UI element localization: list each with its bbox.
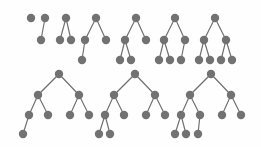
- tree-nodes-tree-1: [27, 14, 35, 22]
- tree-node: [228, 56, 236, 64]
- nodes-layer: [19, 14, 245, 138]
- tree-node: [44, 111, 52, 119]
- tree-nodes-tree-4: [78, 14, 110, 64]
- tree-root-node: [27, 14, 35, 22]
- tree-node: [194, 130, 202, 138]
- tree-node: [237, 111, 245, 119]
- tree-root-node: [131, 70, 139, 78]
- tree-node: [34, 91, 42, 99]
- tree-node: [101, 111, 109, 119]
- tree-root-node: [171, 14, 179, 22]
- tree-nodes-tree-8: [19, 70, 93, 138]
- tree-root-node: [92, 14, 100, 22]
- tree-node: [181, 36, 189, 44]
- tree-node: [106, 130, 114, 138]
- tree-node: [110, 91, 118, 99]
- tree-nodes-tree-7: [195, 14, 236, 64]
- tree-node: [160, 36, 168, 44]
- tree-node: [200, 36, 208, 44]
- tree-node: [218, 111, 226, 119]
- tree-root-node: [211, 14, 219, 22]
- tree-node: [85, 111, 93, 119]
- tree-edge: [135, 74, 155, 95]
- tree-node: [182, 130, 190, 138]
- tree-node: [120, 111, 128, 119]
- tree-node: [19, 130, 27, 138]
- tree-node: [177, 111, 185, 119]
- tree-edges-tree-9: [99, 74, 165, 134]
- tree-node: [222, 36, 230, 44]
- tree-root-node: [55, 70, 63, 78]
- tree-node: [161, 111, 169, 119]
- tree-node: [177, 56, 185, 64]
- tree-edge: [38, 74, 59, 95]
- tree-nodes-tree-10: [171, 70, 245, 138]
- tree-edges-tree-8: [23, 74, 89, 134]
- tree-nodes-tree-9: [95, 70, 169, 138]
- tree-node: [186, 91, 194, 99]
- tree-node: [116, 56, 124, 64]
- tree-figure: [0, 0, 261, 147]
- tree-node: [166, 56, 174, 64]
- tree-node: [25, 111, 33, 119]
- tree-root-node: [132, 14, 140, 22]
- tree-node: [195, 56, 203, 64]
- tree-edge: [190, 74, 211, 95]
- tree-node: [81, 36, 89, 44]
- tree-node: [67, 36, 75, 44]
- tree-node: [78, 56, 86, 64]
- tree-edge: [114, 74, 135, 95]
- tree-node: [37, 36, 45, 44]
- tree-nodes-tree-6: [155, 14, 189, 64]
- tree-node: [56, 36, 64, 44]
- tree-nodes-tree-5: [116, 14, 150, 64]
- tree-node: [121, 36, 129, 44]
- tree-node: [217, 56, 225, 64]
- tree-node: [227, 91, 235, 99]
- tree-root-node: [207, 70, 215, 78]
- tree-edges-tree-10: [175, 74, 241, 134]
- tree-node: [102, 36, 110, 44]
- tree-node: [155, 56, 163, 64]
- tree-root-node: [62, 14, 70, 22]
- tree-node: [75, 91, 83, 99]
- tree-node: [196, 111, 204, 119]
- tree-node: [142, 36, 150, 44]
- tree-diagram-canvas: [0, 0, 261, 147]
- tree-edge: [59, 74, 79, 95]
- tree-node: [142, 111, 150, 119]
- tree-edge: [211, 74, 231, 95]
- tree-node: [151, 91, 159, 99]
- tree-node: [95, 130, 103, 138]
- tree-node: [206, 56, 214, 64]
- tree-nodes-tree-3: [56, 14, 75, 44]
- tree-node: [127, 56, 135, 64]
- tree-root-node: [41, 14, 49, 22]
- tree-node: [66, 111, 74, 119]
- tree-node: [171, 130, 179, 138]
